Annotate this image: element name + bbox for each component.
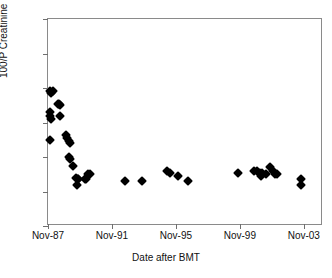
x-axis-tick-label: Nov-95	[146, 231, 206, 241]
data-point	[296, 180, 306, 190]
data-point	[173, 171, 183, 181]
y-axis-title: 100/P Creatinine	[0, 4, 9, 78]
x-axis-tick	[112, 224, 113, 229]
x-axis-tick	[240, 224, 241, 229]
plot-area	[48, 19, 321, 224]
y-axis-tick	[43, 123, 48, 124]
y-axis-tick	[43, 88, 48, 89]
data-point	[45, 135, 55, 145]
x-axis-tick-label: Nov-99	[210, 231, 270, 241]
x-axis-tick	[176, 224, 177, 229]
data-point	[137, 176, 147, 186]
x-axis-tick-label: Nov-87	[18, 231, 78, 241]
data-point	[120, 176, 130, 186]
y-axis-tick	[43, 192, 48, 193]
x-axis-tick	[304, 224, 305, 229]
data-point	[55, 100, 65, 110]
x-axis-tick	[48, 224, 49, 229]
x-axis-title: Date after BMT	[0, 252, 332, 263]
data-point	[55, 111, 65, 121]
data-point	[183, 176, 193, 186]
data-point	[233, 168, 243, 178]
y-axis-tick	[43, 19, 48, 20]
x-axis-tick-label: Nov-03	[274, 231, 332, 241]
scatter-chart: 100/P Creatinine Date after BMT 02040608…	[0, 0, 332, 278]
y-axis-tick	[43, 157, 48, 158]
x-axis-tick-label: Nov-91	[82, 231, 142, 241]
y-axis-tick	[43, 54, 48, 55]
plot-frame: 020406080100120Nov-87Nov-91Nov-95Nov-99N…	[47, 18, 322, 225]
